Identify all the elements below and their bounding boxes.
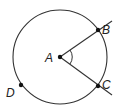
label-a: A [44,51,53,65]
point-c [96,84,100,88]
point-a [58,55,62,59]
point-d [19,83,23,87]
angle-mark [70,50,72,64]
label-d: D [6,86,15,100]
label-c: C [102,78,111,92]
label-b: B [102,23,110,37]
point-b [96,28,100,32]
circle-diagram: A B C D [0,0,123,111]
